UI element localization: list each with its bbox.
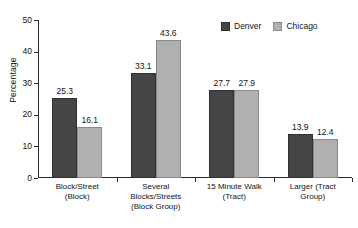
bar-chicago-0 [77,127,102,178]
x-category-label: SeveralBlocks/Streets(Block Group) [117,182,196,212]
x-category-label-line: (Block Group) [117,202,196,212]
bar-value-label: 12.4 [310,127,341,137]
bar-chicago-2 [234,90,259,178]
x-category-label: Larger (TractGroup) [274,182,353,202]
bar-denver-1 [131,73,156,178]
bar-value-label: 27.9 [231,78,262,88]
legend-swatch-icon [221,22,230,31]
bar-value-label: 43.6 [153,28,184,38]
bar-denver-0 [52,98,77,178]
x-category-label-line: (Tract) [195,192,274,202]
x-category-label-line: Several [117,182,196,192]
bar-value-label: 16.1 [74,115,105,125]
y-tick-mark [34,178,38,179]
bar-value-label: 25.3 [49,86,80,96]
bar-chicago-1 [156,40,181,178]
bar-chicago-3 [313,139,338,178]
legend-label: Chicago [286,21,317,31]
plot-area: 01020304050 25.316.133.143.627.727.913.9… [38,20,352,178]
x-category-label-line: Group) [274,192,353,202]
y-tick-label: 40 [23,46,32,56]
x-category-label-line: Blocks/Streets [117,192,196,202]
legend-swatch-icon [273,22,282,31]
y-tick-mark [34,83,38,84]
x-tick-mark [352,178,353,182]
x-category-label: Block/Street(Block) [38,182,117,202]
bar-denver-2 [209,90,234,178]
y-axis-title: Percentage [8,40,18,120]
x-category-label-line: (Block) [38,192,117,202]
legend-item-chicago[interactable]: Chicago [273,21,317,31]
y-tick-label: 30 [23,78,32,88]
y-tick-mark [34,146,38,147]
x-category-label-line: 15 Minute Walk [195,182,274,192]
y-tick-mark [34,52,38,53]
y-tick-mark [34,20,38,21]
chart-legend: DenverChicago [221,21,318,31]
x-category-label: 15 Minute Walk(Tract) [195,182,274,202]
bar-value-label: 33.1 [128,61,159,71]
legend-label: Denver [234,21,261,31]
x-category-label-line: Larger (Tract [274,182,353,192]
y-tick-label: 0 [27,173,32,183]
y-tick-label: 10 [23,141,32,151]
bar-chart: Percentage 01020304050 25.316.133.143.62… [0,0,358,228]
y-tick-label: 50 [23,15,32,25]
x-category-label-line: Block/Street [38,182,117,192]
y-tick-label: 20 [23,109,32,119]
bar-denver-3 [288,134,313,178]
y-tick-mark [34,115,38,116]
y-axis-line [38,20,39,178]
legend-item-denver[interactable]: Denver [221,21,261,31]
